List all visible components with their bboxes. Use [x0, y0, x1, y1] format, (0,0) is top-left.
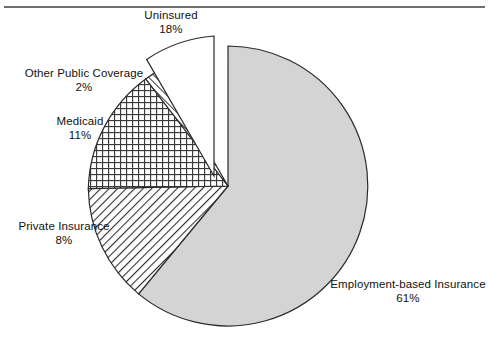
slice-label-uninsured-value: 18% — [106, 22, 236, 36]
pie-chart-figure: Uninsured 18% Other Public Coverage 2% M… — [0, 0, 489, 348]
slice-label-employment-based-insurance: Employment-based Insurance 61% — [330, 277, 486, 305]
slice-label-uninsured: Uninsured 18% — [106, 8, 236, 36]
slice-label-medicaid-name: Medicaid — [57, 115, 104, 127]
slice-label-uninsured-name: Uninsured — [144, 9, 197, 21]
slice-label-other-public-coverage: Other Public Coverage 2% — [8, 66, 160, 94]
slice-label-employment-based-insurance-value: 61% — [330, 291, 486, 305]
slice-label-private-insurance-name: Private Insurance — [18, 220, 109, 232]
slice-label-medicaid-value: 11% — [20, 128, 140, 142]
slice-label-private-insurance-value: 8% — [0, 233, 128, 247]
slice-label-employment-based-insurance-name: Employment-based Insurance — [330, 278, 485, 290]
slice-label-other-public-coverage-name: Other Public Coverage — [25, 67, 143, 79]
slice-label-private-insurance: Private Insurance 8% — [0, 219, 128, 247]
slice-label-other-public-coverage-value: 2% — [8, 80, 160, 94]
slice-label-medicaid: Medicaid 11% — [20, 114, 140, 142]
